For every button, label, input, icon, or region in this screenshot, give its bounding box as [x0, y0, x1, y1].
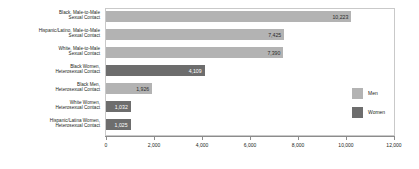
category-label-line2: Sexual Contact	[0, 51, 100, 57]
category-label: Black Women,Heterosexual Contact	[0, 64, 100, 75]
x-axis-tick	[394, 136, 395, 140]
category-label-line2: Heterosexual Contact	[0, 87, 100, 93]
category-label-line1: White, Male-to-Male	[59, 46, 100, 51]
bar-value-label: 1,032	[115, 104, 128, 110]
x-axis-tick	[154, 136, 155, 140]
bar: 1,032	[106, 101, 131, 112]
bar-value-label: 4,109	[189, 68, 202, 74]
legend-label: Men	[368, 90, 378, 97]
bar: 10,223	[106, 11, 351, 22]
bar: 1,025	[106, 119, 131, 130]
legend-label: Women	[368, 109, 385, 116]
x-axis-tick-labels: 02,0004,0006,0008,00010,00012,000	[105, 142, 395, 152]
x-axis-tick-label: 2,000	[148, 142, 161, 149]
category-label-line2: Heterosexual Contact	[0, 69, 100, 75]
bar-value-label: 1,926	[136, 86, 149, 92]
x-axis-tick-label: 6,000	[244, 142, 257, 149]
bar: 1,926	[106, 83, 152, 94]
x-axis-tick-label: 4,000	[196, 142, 209, 149]
x-axis-tick-label: 10,000	[338, 142, 353, 149]
x-axis-tick	[250, 136, 251, 140]
bar: 7,390	[106, 47, 283, 58]
bar: 4,109	[106, 65, 205, 76]
category-label: Black, Male-to-MaleSexual Contact	[0, 10, 100, 21]
category-label-line2: Sexual Contact	[0, 33, 100, 39]
x-axis-tick	[298, 136, 299, 140]
category-label: White, Male-to-MaleSexual Contact	[0, 46, 100, 57]
category-label: Hispanic/Latina Women,Heterosexual Conta…	[0, 118, 100, 129]
legend-swatch	[352, 88, 363, 99]
category-label-line1: White Women,	[70, 100, 100, 105]
x-axis-tick-label: 12,000	[386, 142, 401, 149]
bar-chart: Black, Male-to-MaleSexual ContactHispani…	[0, 0, 419, 169]
category-label: Black Men,Heterosexual Contact	[0, 82, 100, 93]
category-label: Hispanic/Latino, Male-to-MaleSexual Cont…	[0, 28, 100, 39]
category-label-line1: Black Women,	[70, 64, 100, 69]
category-label-line2: Sexual Contact	[0, 15, 100, 21]
category-label-line1: Hispanic/Latina Women,	[50, 118, 100, 123]
bars-container: 10,2237,4257,3904,1091,9261,0321,025	[106, 9, 394, 135]
bar-value-label: 7,425	[268, 32, 281, 38]
x-axis-tick-label: 0	[105, 142, 108, 149]
category-label-line1: Black Men,	[77, 82, 100, 87]
x-axis-tick	[106, 136, 107, 140]
legend-swatch	[352, 107, 363, 118]
category-label-line2: Heterosexual Contact	[0, 123, 100, 129]
x-axis-tick	[346, 136, 347, 140]
x-axis-tick-label: 8,000	[292, 142, 305, 149]
chart-legend: MenWomen	[352, 88, 416, 122]
bar-value-label: 10,223	[332, 14, 348, 20]
category-axis-labels: Black, Male-to-MaleSexual ContactHispani…	[0, 8, 103, 136]
bar-value-label: 7,390	[267, 50, 280, 56]
category-label-line1: Hispanic/Latino, Male-to-Male	[39, 28, 100, 33]
category-label: White Women,Heterosexual Contact	[0, 100, 100, 111]
bar: 7,425	[106, 29, 284, 40]
category-label-line1: Black, Male-to-Male	[59, 10, 100, 15]
x-axis-tick	[202, 136, 203, 140]
bar-value-label: 1,025	[115, 122, 128, 128]
category-label-line2: Heterosexual Contact	[0, 105, 100, 111]
